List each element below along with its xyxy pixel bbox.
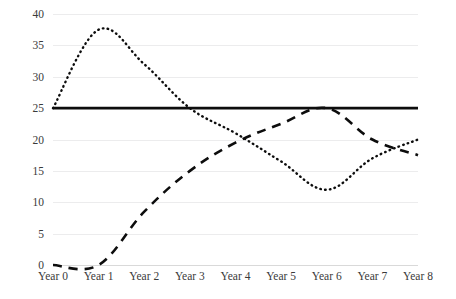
- y-tick-label: 15: [33, 165, 45, 177]
- x-tick-label: Year 2: [129, 270, 159, 282]
- y-axis-tick-labels: 0510152025303540: [33, 8, 45, 271]
- y-tick-label: 35: [33, 39, 45, 51]
- x-tick-label: Year 8: [403, 270, 433, 282]
- line-chart: 0510152025303540 Year 0Year 1Year 2Year …: [0, 0, 456, 299]
- x-tick-label: Year 3: [175, 270, 205, 282]
- x-tick-label: Year 0: [38, 270, 68, 282]
- y-tick-label: 30: [33, 71, 45, 83]
- y-tick-label: 20: [33, 134, 45, 146]
- y-tick-label: 40: [33, 8, 45, 20]
- x-tick-label: Year 1: [84, 270, 114, 282]
- chart-canvas: 0510152025303540 Year 0Year 1Year 2Year …: [0, 0, 456, 299]
- y-tick-label: 5: [38, 228, 44, 240]
- x-tick-label: Year 7: [357, 270, 387, 282]
- y-tick-label: 10: [33, 196, 45, 208]
- x-axis-tick-labels: Year 0Year 1Year 2Year 3Year 4Year 5Year…: [38, 270, 433, 282]
- y-tick-label: 25: [33, 102, 45, 114]
- x-tick-label: Year 6: [312, 270, 342, 282]
- x-tick-label: Year 4: [221, 270, 251, 282]
- x-tick-label: Year 5: [266, 270, 296, 282]
- plot-background: [53, 14, 418, 265]
